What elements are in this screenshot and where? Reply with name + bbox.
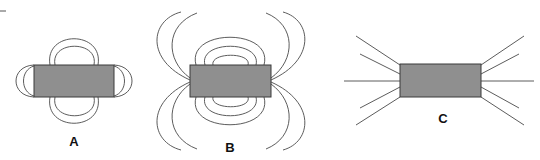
field-line [213,55,248,65]
field-line [16,65,34,97]
field-line [481,36,524,65]
field-line [356,97,400,125]
field-line [157,82,190,150]
panel-label-a: A [69,134,79,149]
field-line [356,36,400,65]
field-line [271,12,305,80]
panel-c: C [344,36,534,126]
field-line [195,97,265,125]
field-line [360,54,400,74]
field-line [114,66,125,96]
field-line [213,97,248,107]
magnetic-field-figure: A B [0,0,540,160]
field-line [50,39,99,65]
field-line [271,82,305,150]
panel-a: A [16,39,132,149]
field-line [55,46,95,65]
field-line [114,65,132,97]
field-line [50,97,99,123]
magnet-a [34,65,114,97]
field-line [24,66,35,96]
field-line [360,87,400,108]
field-line [195,37,265,65]
magnet-c [400,64,481,97]
field-line [55,97,95,116]
field-line [481,87,519,108]
field-line [481,54,519,74]
magnet-b [190,65,271,97]
field-line [481,97,524,125]
panel-b: B [157,12,305,155]
panel-label-c: C [438,111,448,126]
panel-label-b: B [225,140,234,155]
field-line [157,12,190,80]
